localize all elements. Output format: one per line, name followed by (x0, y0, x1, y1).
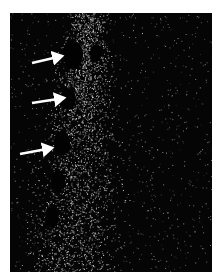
speckle-field (10, 13, 212, 272)
dark-hole (51, 170, 65, 192)
arrow-icon (20, 148, 52, 154)
dark-hole (45, 208, 59, 228)
arrow-icon (32, 56, 62, 63)
dark-hole (63, 41, 83, 69)
arrow-icon (32, 98, 64, 103)
microscopy-image (10, 13, 212, 272)
dark-hole (90, 44, 102, 62)
dark-hole (54, 131, 70, 155)
